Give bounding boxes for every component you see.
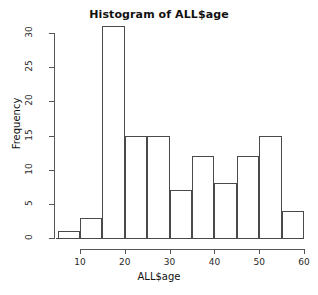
- histogram-bars: [0, 0, 318, 295]
- histogram-bar: [192, 156, 214, 239]
- x-axis-title: ALL$age: [0, 271, 318, 282]
- x-tick-label: 50: [246, 257, 272, 267]
- x-axis-line: [80, 249, 304, 250]
- x-tick-label: 30: [157, 257, 183, 267]
- x-tick-mark: [304, 249, 305, 254]
- histogram-bar: [282, 211, 304, 239]
- histogram-bar: [147, 136, 169, 240]
- histogram-bar: [80, 218, 102, 240]
- x-tick-mark: [80, 249, 81, 254]
- histogram-bar: [259, 136, 281, 240]
- x-tick-label: 10: [67, 257, 93, 267]
- histogram-figure: Histogram of ALL$age Frequency 051015202…: [0, 0, 318, 295]
- x-tick-mark: [214, 249, 215, 254]
- x-tick-label: 40: [201, 257, 227, 267]
- histogram-bar: [237, 156, 259, 239]
- x-tick-mark: [259, 249, 260, 254]
- histogram-bar: [214, 183, 236, 239]
- histogram-bar: [102, 26, 124, 239]
- x-tick-label: 60: [291, 257, 317, 267]
- histogram-bar: [170, 190, 192, 239]
- x-tick-mark: [125, 249, 126, 254]
- plot-baseline: [56, 238, 304, 239]
- x-tick-mark: [170, 249, 171, 254]
- x-tick-label: 20: [112, 257, 138, 267]
- histogram-bar: [125, 136, 147, 240]
